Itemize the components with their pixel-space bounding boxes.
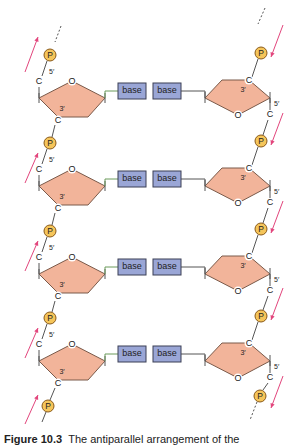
carbon-5-label: C — [267, 109, 274, 119]
phosphate-label: P — [47, 50, 53, 60]
phosphodiester-bond — [52, 213, 55, 225]
figure-caption-label: Figure 10.3 — [4, 433, 62, 445]
oxygen-label: O — [68, 76, 75, 86]
base-label: base — [122, 173, 142, 183]
carbon-3-label: C — [55, 291, 62, 301]
five-prime-label: 5′ — [49, 244, 55, 251]
carbon-5-label: C — [36, 76, 43, 86]
carbon-3-label: C — [55, 378, 62, 388]
base-label: base — [122, 261, 142, 271]
three-prime-label: 3′ — [240, 86, 246, 93]
phosphodiester-bond — [252, 235, 258, 253]
figure-caption: Figure 10.3 The antiparallel arrangement… — [4, 433, 239, 445]
oxygen-label: O — [68, 339, 75, 349]
phosphate-label: P — [258, 48, 264, 58]
five-prime-label: 5′ — [274, 363, 280, 370]
carbon-3-label: C — [246, 75, 253, 85]
oxygen-label: O — [234, 110, 241, 120]
three-prime-label: 3′ — [240, 349, 246, 356]
phosphate-label: P — [45, 401, 51, 411]
five-prime-label: 5′ — [49, 68, 55, 75]
five-prime-label: 5′ — [274, 100, 280, 107]
base-label: base — [122, 85, 142, 95]
phosphate-label: P — [257, 391, 263, 401]
phosphodiester-bond — [42, 237, 47, 252]
oxygen-label: O — [234, 286, 241, 296]
phosphodiester-bond — [263, 120, 268, 135]
carbon-5-label: C — [267, 285, 274, 295]
strand-tail-dashed — [55, 26, 61, 42]
carbon-5-label: C — [36, 339, 43, 349]
oxygen-label: O — [68, 164, 75, 174]
oxygen-label: O — [234, 198, 241, 208]
three-prime-label: 3′ — [59, 368, 65, 375]
oxygen-label: O — [234, 373, 241, 383]
carbon-3-label: C — [246, 338, 253, 348]
carbon-5-label: C — [267, 372, 274, 382]
left-arrow — [25, 395, 38, 424]
deoxyribose-sugar — [39, 81, 105, 117]
phosphodiester-bond — [52, 125, 55, 137]
oxygen-label: O — [68, 252, 75, 262]
three-prime-label: 3′ — [240, 174, 246, 181]
phosphodiester-bond — [252, 59, 258, 77]
deoxyribose-sugar — [39, 344, 105, 380]
three-prime-label: 3′ — [59, 193, 65, 200]
figure-caption-text: The antiparallel arrangement of the — [68, 433, 239, 445]
strand-tail-dashed — [258, 8, 265, 24]
carbon-3-label: C — [246, 251, 253, 261]
phosphate-label: P — [47, 226, 53, 236]
three-prime-label: 3′ — [59, 105, 65, 112]
phosphodiester-bond — [263, 383, 268, 390]
phosphodiester-bond — [52, 301, 55, 312]
carbon-5-label: C — [267, 197, 274, 207]
phosphodiester-bond — [42, 149, 47, 164]
phosphodiester-bond — [263, 296, 268, 310]
deoxyribose-sugar — [39, 169, 105, 205]
carbon-3-label: C — [55, 115, 62, 125]
phosphodiester-bond — [42, 61, 47, 76]
phosphate-label: P — [258, 136, 264, 146]
left-arrow-0 — [25, 37, 38, 72]
phosphate-label: P — [47, 313, 53, 323]
base-label: base — [157, 173, 177, 183]
carbon-3-label: C — [246, 163, 253, 173]
carbon-3-label: C — [55, 203, 62, 213]
phosphodiester-bond — [252, 147, 258, 165]
phosphodiester-bond — [252, 322, 258, 340]
dna-antiparallel-diagram: P5′CO3′CbaseP5′CO3′CbaseP5′CO3′CbaseP5′C… — [0, 0, 299, 430]
phosphodiester-bond — [263, 208, 268, 223]
three-prime-label: 3′ — [240, 262, 246, 269]
five-prime-label: 5′ — [274, 276, 280, 283]
base-label: base — [122, 348, 142, 358]
three-prime-label: 3′ — [59, 281, 65, 288]
phosphodiester-bond — [42, 324, 47, 339]
five-prime-label: 5′ — [49, 331, 55, 338]
phosphate-label: P — [47, 138, 53, 148]
phosphodiester-bond — [50, 388, 55, 400]
base-label: base — [157, 348, 177, 358]
strand-tail-dashed — [250, 402, 257, 420]
deoxyribose-sugar — [39, 257, 105, 293]
five-prime-label: 5′ — [274, 188, 280, 195]
base-label: base — [157, 261, 177, 271]
carbon-5-label: C — [36, 252, 43, 262]
strand-tail — [42, 412, 46, 422]
right-arrow — [271, 25, 283, 57]
base-label: base — [157, 85, 177, 95]
phosphate-label: P — [258, 311, 264, 321]
phosphate-label: P — [258, 224, 264, 234]
five-prime-label: 5′ — [49, 156, 55, 163]
carbon-5-label: C — [36, 164, 43, 174]
